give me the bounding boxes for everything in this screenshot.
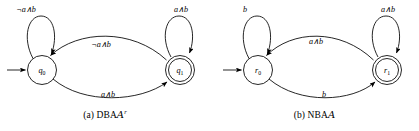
transition-r1-to-r0-arc: a∧b (267, 36, 374, 60)
edge-label-q0-q1: a∧b (101, 90, 115, 99)
transition-r0-to-r1-arc: b (269, 79, 375, 99)
state-diagram-dba: ¬a∧b a∧b ¬a∧b a∧b q0 (0, 0, 210, 110)
caption-kind-nba: NBA (308, 110, 328, 120)
edge-label-q0-self: ¬a∧b (16, 5, 36, 14)
edge-label-q1-self: a∧b (174, 5, 188, 14)
figure-root: ¬a∧b a∧b ¬a∧b a∧b q0 (0, 0, 419, 131)
state-r1[interactable]: r1 (373, 56, 402, 85)
automaton-panel-dba: ¬a∧b a∧b ¬a∧b a∧b q0 (0, 0, 210, 131)
transition-q0-q0-self-loop: ¬a∧b (16, 5, 54, 59)
caption-index-nba: (b) (294, 110, 305, 120)
transition-q1-q1-self-loop: a∧b (165, 5, 192, 57)
caption-index-dba: (a) (83, 110, 94, 120)
transition-q0-to-q1-arc: a∧b (53, 79, 167, 99)
transition-q1-to-q0-arc: ¬a∧b (51, 36, 167, 60)
caption-kind-dba: DBA (97, 110, 117, 120)
state-q0[interactable]: q0 (28, 56, 57, 85)
caption-nba: (b) NBAA (210, 108, 419, 120)
transition-r0-r0-self-loop: b (243, 5, 271, 59)
caption-automaton-symbol-nba: A (328, 109, 335, 120)
edge-label-r0-r1: b (322, 90, 326, 99)
state-r0[interactable]: r0 (244, 56, 273, 85)
automaton-panel-nba: b a∧b a∧b b r0 (210, 0, 419, 131)
edge-label-r0-self: b (243, 5, 247, 14)
state-diagram-nba: b a∧b a∧b b r0 (210, 0, 419, 110)
edge-label-r1-self: a∧b (381, 5, 395, 14)
caption-superscript-dba: r (124, 108, 127, 115)
caption-dba: (a) DBAAr (0, 108, 210, 120)
transition-r1-r1-self-loop: a∧b (372, 5, 399, 57)
edge-label-q1-q0: ¬a∧b (91, 40, 111, 49)
edge-label-r1-r0: a∧b (309, 37, 323, 46)
state-q1[interactable]: q1 (166, 56, 195, 85)
